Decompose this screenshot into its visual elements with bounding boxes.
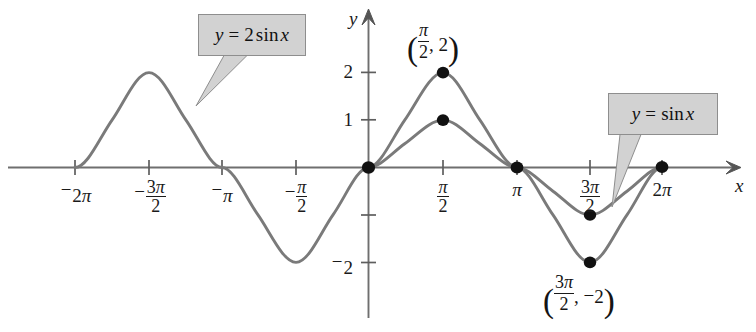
point-max-2sinx <box>437 67 449 79</box>
sine-graph-figure: y x −2π −3π2 −π −π2 π2 π 3π2 2π 2 1 −2 y… <box>0 0 756 332</box>
point-max-sinx <box>437 114 449 126</box>
x-tick-label-pi-over-2: π2 <box>420 178 466 215</box>
y-axis-label: y <box>349 9 357 28</box>
point-zero-pi <box>511 162 524 174</box>
x-tick-label-neg-3pi-over-2: −3π2 <box>120 178 180 215</box>
point-label-min-2sinx: (3π2, −2) <box>543 272 615 320</box>
callout-tail-2sinx <box>196 56 247 107</box>
x-tick-label-neg-2pi: −2π <box>47 180 105 205</box>
x-tick-label-2pi: 2π <box>636 180 688 199</box>
y-tick-label-neg-2: −2 <box>316 252 353 277</box>
y-tick-label-1: 1 <box>325 110 353 129</box>
callout-box-2-sin-x[interactable]: y = 2 sin x <box>198 14 306 56</box>
graph-canvas <box>0 0 756 332</box>
x-tick-label-neg-pi: −π <box>195 180 249 205</box>
x-axis-label: x <box>735 176 743 195</box>
x-tick-label-neg-pi-over-2: −π2 <box>268 178 324 215</box>
callout-text-2-sin-x: y = 2 sin x <box>215 24 289 46</box>
x-tick-label-pi: π <box>494 180 540 199</box>
y-tick-label-2: 2 <box>325 62 353 81</box>
point-zero-2pi <box>656 161 669 173</box>
point-label-max-2sinx: (π2, 2) <box>407 20 459 68</box>
callout-box-sin-x[interactable]: y = sin x <box>608 93 718 135</box>
point-origin <box>362 161 375 173</box>
point-min-2sinx <box>584 257 596 269</box>
x-tick-label-3pi-over-2: 3π2 <box>564 178 616 215</box>
callout-text-sin-x: y = sin x <box>632 103 695 125</box>
